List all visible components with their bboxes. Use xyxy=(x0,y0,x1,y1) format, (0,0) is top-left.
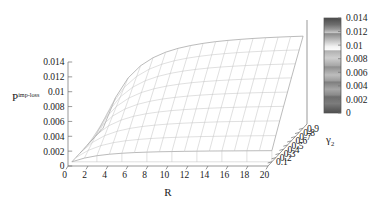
x-tick-label: 8 xyxy=(142,170,147,180)
x-tick-label: 20 xyxy=(260,170,270,180)
z-axis-title-superscript: imp-loss xyxy=(18,91,40,98)
surface-plot-figure: 02468101214161820 0.10.20.30.40.50.60.70… xyxy=(0,0,385,204)
colorbar-tick-label: 0.006 xyxy=(346,68,368,78)
z-tick-label: 0.014 xyxy=(43,57,65,67)
y-axis-title-subscript: 2 xyxy=(331,140,334,147)
colorbar-tick-label: 0.014 xyxy=(346,13,368,23)
y-tick-label: 0.9 xyxy=(307,124,319,134)
x-tick-label: 10 xyxy=(160,170,170,180)
z-tick-label: 0.01 xyxy=(48,87,65,97)
plot-canvas: 02468101214161820 0.10.20.30.40.50.60.70… xyxy=(0,0,385,204)
z-tick-label: 0.006 xyxy=(43,117,65,127)
z-tick-label: 0 xyxy=(60,161,65,171)
z-tick-label: 0.002 xyxy=(43,147,65,157)
x-axis-title: R xyxy=(164,186,172,198)
x-tick-label: 0 xyxy=(62,170,67,180)
x-tick-label: 18 xyxy=(240,170,250,180)
colorbar-tick-label: 0.002 xyxy=(346,95,368,105)
colorbar-tick-label: 0 xyxy=(346,108,351,118)
x-tick-label: 16 xyxy=(220,170,230,180)
x-tick-label: 12 xyxy=(180,170,190,180)
colorbar-tick-label: 0.008 xyxy=(346,54,368,64)
z-tick-label: 0.012 xyxy=(43,72,65,82)
colorbar-tick-label: 0.01 xyxy=(346,41,363,51)
colorbar-tick-label: 0.012 xyxy=(346,27,368,37)
z-tick-label: 0.008 xyxy=(43,102,65,112)
x-tick-label: 2 xyxy=(82,170,87,180)
x-tick-label: 4 xyxy=(102,170,107,180)
x-tick-label: 6 xyxy=(122,170,127,180)
x-tick-label: 14 xyxy=(200,170,210,180)
z-tick-label: 0.004 xyxy=(43,132,65,142)
colorbar-gradient xyxy=(324,18,341,113)
colorbar-tick-label: 0.004 xyxy=(346,81,368,91)
